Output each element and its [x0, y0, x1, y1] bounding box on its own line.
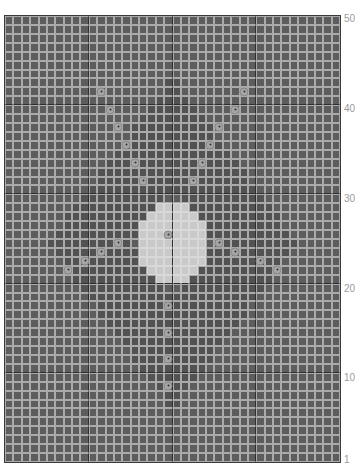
- grid-cell: [47, 337, 55, 346]
- grid-cell: [139, 408, 147, 417]
- grid-cell: [214, 114, 222, 123]
- grid-cell: [181, 203, 189, 212]
- grid-cell: [332, 364, 340, 373]
- grid-cell: [5, 168, 13, 177]
- grid-cell: [256, 266, 264, 275]
- grid-cell: [248, 346, 256, 355]
- grid-cell: [13, 417, 21, 426]
- grid-cell: [30, 105, 38, 114]
- grid-cell: [248, 212, 256, 221]
- grid-cell: [22, 159, 30, 168]
- grid-cell: [147, 203, 155, 212]
- grid-cell: [189, 373, 197, 382]
- grid-cell: [156, 61, 164, 70]
- grid-cell: [55, 230, 63, 239]
- grid-cell: [248, 185, 256, 194]
- grid-cell: [106, 293, 114, 302]
- grid-cell: [214, 105, 222, 114]
- grid-cell: [64, 132, 72, 141]
- grid-cell: [80, 141, 88, 150]
- grid-cell: [281, 230, 289, 239]
- grid-cell: [298, 141, 306, 150]
- grid-cell: [223, 61, 231, 70]
- grid-cell: [131, 43, 139, 52]
- grid-cell: [122, 239, 130, 248]
- grid-cell: [315, 275, 323, 284]
- grid-cell: [5, 25, 13, 34]
- grid-cell: [39, 248, 47, 257]
- grid-cell: [256, 34, 264, 43]
- marker-dot-icon: [114, 123, 123, 132]
- grid-cell: [181, 185, 189, 194]
- grid-cell: [332, 177, 340, 186]
- grid-cell: [80, 132, 88, 141]
- grid-cell: [114, 70, 122, 79]
- grid-cell: [139, 275, 147, 284]
- grid-cell: [307, 87, 315, 96]
- grid-cell: [240, 212, 248, 221]
- grid-cell: [72, 52, 80, 61]
- grid-cell: [156, 52, 164, 61]
- grid-cell: [298, 185, 306, 194]
- grid-cell: [231, 275, 239, 284]
- grid-cell: [97, 78, 105, 87]
- grid-cell: [240, 257, 248, 266]
- grid-cell: [131, 52, 139, 61]
- grid-cell: [139, 96, 147, 105]
- grid-cell: [181, 248, 189, 257]
- grid-cell: [122, 355, 130, 364]
- grid-cell: [39, 417, 47, 426]
- grid-cell: [39, 105, 47, 114]
- grid-cell: [273, 194, 281, 203]
- grid-cell: [47, 159, 55, 168]
- grid-cell: [281, 70, 289, 79]
- grid-cell: [240, 203, 248, 212]
- grid-cell: [281, 123, 289, 132]
- grid-cell: [147, 78, 155, 87]
- grid-cell: [281, 408, 289, 417]
- grid-cell: [13, 168, 21, 177]
- grid-cell: [22, 150, 30, 159]
- grid-cell: [147, 426, 155, 435]
- grid-cell: [240, 114, 248, 123]
- grid-cell: [131, 203, 139, 212]
- grid-cell: [122, 212, 130, 221]
- grid-cell: [315, 78, 323, 87]
- grid-cell: [80, 275, 88, 284]
- marker-dot-icon: [214, 239, 223, 248]
- grid-cell: [5, 284, 13, 293]
- grid-cell: [189, 257, 197, 266]
- grid-cell: [265, 417, 273, 426]
- grid-cell: [30, 453, 38, 462]
- grid-cell: [55, 293, 63, 302]
- grid-cell: [332, 105, 340, 114]
- grid-cell: [55, 248, 63, 257]
- grid-cell: [164, 453, 172, 462]
- grid-cell: [248, 105, 256, 114]
- grid-cell: [315, 141, 323, 150]
- grid-cell: [332, 248, 340, 257]
- grid-cell: [214, 355, 222, 364]
- grid-cell: [64, 444, 72, 453]
- grid-cell: [106, 185, 114, 194]
- grid-cell: [265, 87, 273, 96]
- grid-cell: [106, 61, 114, 70]
- grid-cell: [332, 52, 340, 61]
- grid-cell: [122, 114, 130, 123]
- grid-cell: [307, 25, 315, 34]
- grid-cell: [156, 70, 164, 79]
- grid-cell: [298, 364, 306, 373]
- grid-cell: [281, 248, 289, 257]
- grid-cell: [290, 373, 298, 382]
- grid-cell: [80, 70, 88, 79]
- grid-cell: [173, 346, 181, 355]
- grid-cell: [198, 203, 206, 212]
- grid-cell: [122, 284, 130, 293]
- grid-cell: [332, 78, 340, 87]
- grid-cell: [198, 43, 206, 52]
- grid-cell: [164, 212, 172, 221]
- grid-cell: [181, 364, 189, 373]
- grid-cell: [147, 364, 155, 373]
- grid-cell: [72, 266, 80, 275]
- grid-cell: [139, 337, 147, 346]
